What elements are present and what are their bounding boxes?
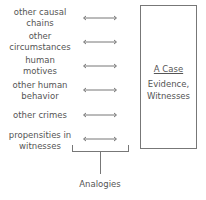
label-line: other causal (0, 7, 80, 18)
double-arrow-icon (83, 87, 117, 93)
double-arrow-icon (83, 136, 117, 142)
label-line: other human (0, 80, 80, 91)
analogies-label: Analogies (60, 179, 140, 189)
case-desc-line: Witnesses (141, 90, 196, 102)
label-other-causal-chains: other causal chains (0, 7, 80, 29)
case-title: A Case (141, 64, 196, 74)
label-other-circumstances: other circumstances (0, 31, 80, 53)
case-desc-line: Evidence, (141, 78, 196, 90)
double-arrow-icon (83, 63, 117, 69)
label-line: circumstances (0, 42, 80, 53)
double-arrow-icon (83, 112, 117, 118)
label-line: chains (0, 18, 80, 29)
label-line: witnesses (0, 141, 80, 152)
label-line: propensities in (0, 130, 80, 141)
label-line: other crimes (0, 110, 80, 121)
label-line: behavior (0, 91, 80, 102)
case-box: A Case Evidence, Witnesses (140, 5, 197, 149)
label-human-motives: human motives (0, 55, 80, 77)
analogies-bracket (72, 145, 129, 152)
label-line: motives (0, 66, 80, 77)
label-propensities-in-witnesses: propensities in witnesses (0, 130, 80, 152)
label-line: other (0, 31, 80, 42)
double-arrow-icon (83, 15, 117, 21)
label-other-crimes: other crimes (0, 110, 80, 121)
label-other-human-behavior: other human behavior (0, 80, 80, 102)
case-description: Evidence, Witnesses (141, 78, 196, 102)
bracket-stem (100, 152, 101, 174)
label-line: human (0, 55, 80, 66)
double-arrow-icon (83, 39, 117, 45)
